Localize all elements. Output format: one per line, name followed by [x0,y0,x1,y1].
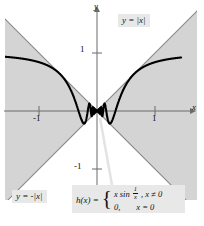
legend-label-y-neg-abs: y = -|x| [12,190,47,203]
x-tick-label-pos1: 1 [152,114,157,123]
formula-case-2: 0, x = 0 [114,202,162,212]
formula-head: h(x) = [76,195,99,205]
x-axis-label: x [192,103,196,112]
callout-leader-line [100,118,112,185]
y-tick-label-pos1: 1 [80,45,85,54]
formula-callout: h(x) = { x sin 1 x , x ≠ 0 0, x = 0 [76,187,162,212]
formula-case1-expr: x sin [114,189,130,199]
case-brace-icon: { [102,188,112,209]
fraction-denominator: x [133,193,138,201]
formula-case2-expr: 0, [114,202,120,212]
x-tick-label-neg1: -1 [33,114,41,123]
fraction-one-over-x: 1 x [133,186,138,200]
formula-case2-cond: x = 0 [136,202,154,212]
y-tick-label-neg1: -1 [74,162,82,171]
formula-case1-cond: , x ≠ 0 [141,189,162,199]
legend-label-y-abs: y = |x| [118,14,150,27]
y-axis-label: y [94,2,98,11]
formula-case-1: x sin 1 x , x ≠ 0 [114,187,162,201]
